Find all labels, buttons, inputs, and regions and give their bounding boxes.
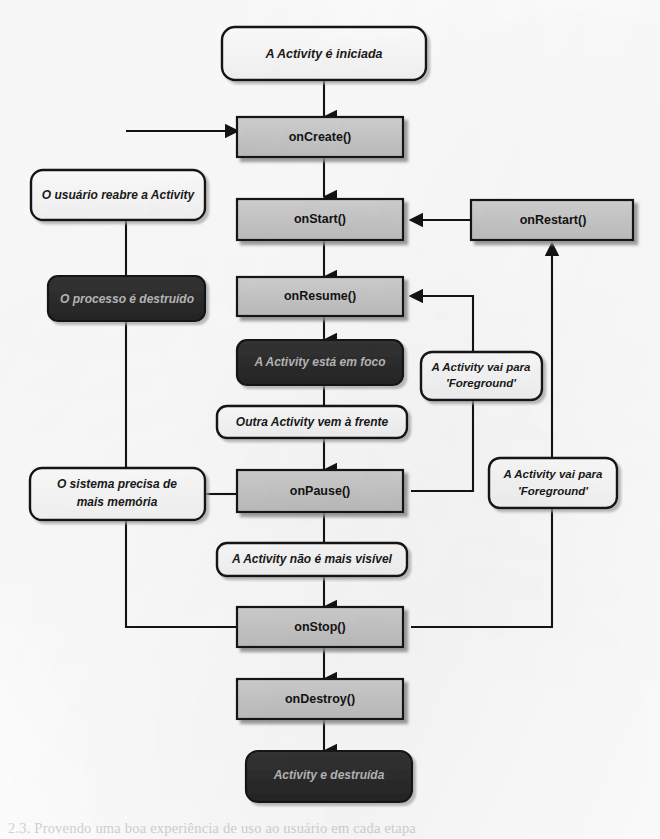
node-activity-started: A Activity é iniciada [222,27,426,80]
node-onstart-label: onStart() [294,212,346,226]
node-system-needs-memory-box [30,468,205,520]
node-system-needs-memory-label-line1: O sistema precisa de [57,477,177,491]
node-foreground-upper: A Activity vai para 'Foreground' [421,352,542,400]
node-foreground-upper-label-line1: A Activity vai para [431,361,531,373]
node-activity-not-visible: A Activity não é mais visível [217,543,407,576]
node-onresume: onResume() [237,277,403,316]
node-onresume-label: onResume() [284,289,356,303]
node-onstop-label: onStop() [294,620,345,634]
node-foreground-lower-box [489,458,617,508]
node-activity-not-visible-label: A Activity não é mais visível [231,552,393,566]
node-activity-destroyed-label: Activity e destruída [273,768,385,782]
node-onpause-label: onPause() [290,484,350,498]
node-onstart: onStart() [237,199,403,240]
node-system-needs-memory: O sistema precisa de mais memória [30,468,205,520]
node-onstop: onStop() [237,607,403,647]
figure-caption: 2.3. Provendo uma boa experiência de uso… [8,822,652,837]
node-oncreate: onCreate() [237,117,403,157]
node-foreground-lower-label-line1: A Activity vai para [503,468,603,480]
node-system-needs-memory-label-line2: mais memória [77,495,158,509]
node-oncreate-label: onCreate() [289,130,352,144]
node-process-killed: O processo é destruído [48,276,205,321]
node-onrestart: onRestart() [471,200,633,240]
node-process-killed-label: O processo é destruído [60,292,194,306]
node-user-reopens: O usuário reabre a Activity [31,170,205,220]
node-ondestroy-label: onDestroy() [285,692,355,706]
figure-caption-clip: 2.3. Provendo uma boa experiência de uso… [0,822,660,839]
node-onrestart-label: onRestart() [520,213,587,227]
node-another-activity-front: Outra Activity vem à frente [217,406,407,438]
node-activity-in-focus: A Activity está em foco [237,340,403,385]
node-foreground-upper-box [421,352,542,400]
node-activity-destroyed: Activity e destruída [246,751,412,802]
edge-onstop-to-onrestart [411,244,552,627]
node-onpause: onPause() [237,470,403,512]
node-activity-started-label: A Activity é iniciada [264,47,382,61]
node-user-reopens-label: O usuário reabre a Activity [42,188,196,202]
node-foreground-upper-label-line2: 'Foreground' [446,377,517,389]
node-foreground-lower-label-line2: 'Foreground' [518,485,589,497]
activity-lifecycle-diagram: A Activity é iniciada onCreate() O usuár… [0,0,660,839]
node-foreground-lower: A Activity vai para 'Foreground' [489,458,617,508]
node-activity-in-focus-label: A Activity está em foco [253,355,385,369]
node-ondestroy: onDestroy() [237,679,403,719]
node-another-activity-front-label: Outra Activity vem à frente [236,415,389,429]
